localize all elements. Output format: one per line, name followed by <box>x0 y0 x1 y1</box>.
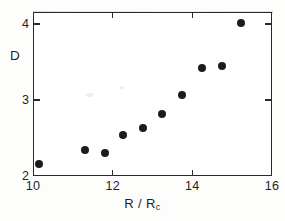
data-point <box>198 64 206 72</box>
x-axis-tick-label: 14 <box>185 179 200 193</box>
y-axis-tick-label: 4 <box>18 17 29 31</box>
data-point <box>119 131 127 139</box>
y-axis-tick <box>33 23 40 25</box>
x-axis-tick-top <box>192 12 194 18</box>
data-point <box>218 62 226 70</box>
y-axis-tick <box>33 99 40 101</box>
x-axis-tick-label: 12 <box>105 179 120 193</box>
x-axis-tick <box>112 170 114 176</box>
data-point <box>158 110 166 118</box>
x-axis-tick-label: 16 <box>265 179 280 193</box>
x-axis-label: R / Rc <box>0 196 285 211</box>
y-axis-tick-right <box>265 99 272 101</box>
x-axis-label-main: R / R <box>124 196 156 211</box>
data-point <box>178 91 186 99</box>
data-point <box>139 124 147 132</box>
x-axis-label-subscript: c <box>156 202 161 212</box>
data-point <box>35 160 43 168</box>
data-point <box>101 149 109 157</box>
scatter-plot-figure: 10121416234 D R / Rc <box>0 0 285 221</box>
data-point <box>237 19 245 27</box>
x-axis-tick-top <box>112 12 114 18</box>
y-axis-tick-label: 3 <box>18 93 29 107</box>
plot-data-area <box>33 12 272 176</box>
x-axis-tick <box>192 170 194 176</box>
y-axis-tick-right <box>265 23 272 25</box>
y-axis-label: D <box>10 48 20 63</box>
y-axis-tick-label: 2 <box>18 169 29 183</box>
data-point <box>81 146 89 154</box>
